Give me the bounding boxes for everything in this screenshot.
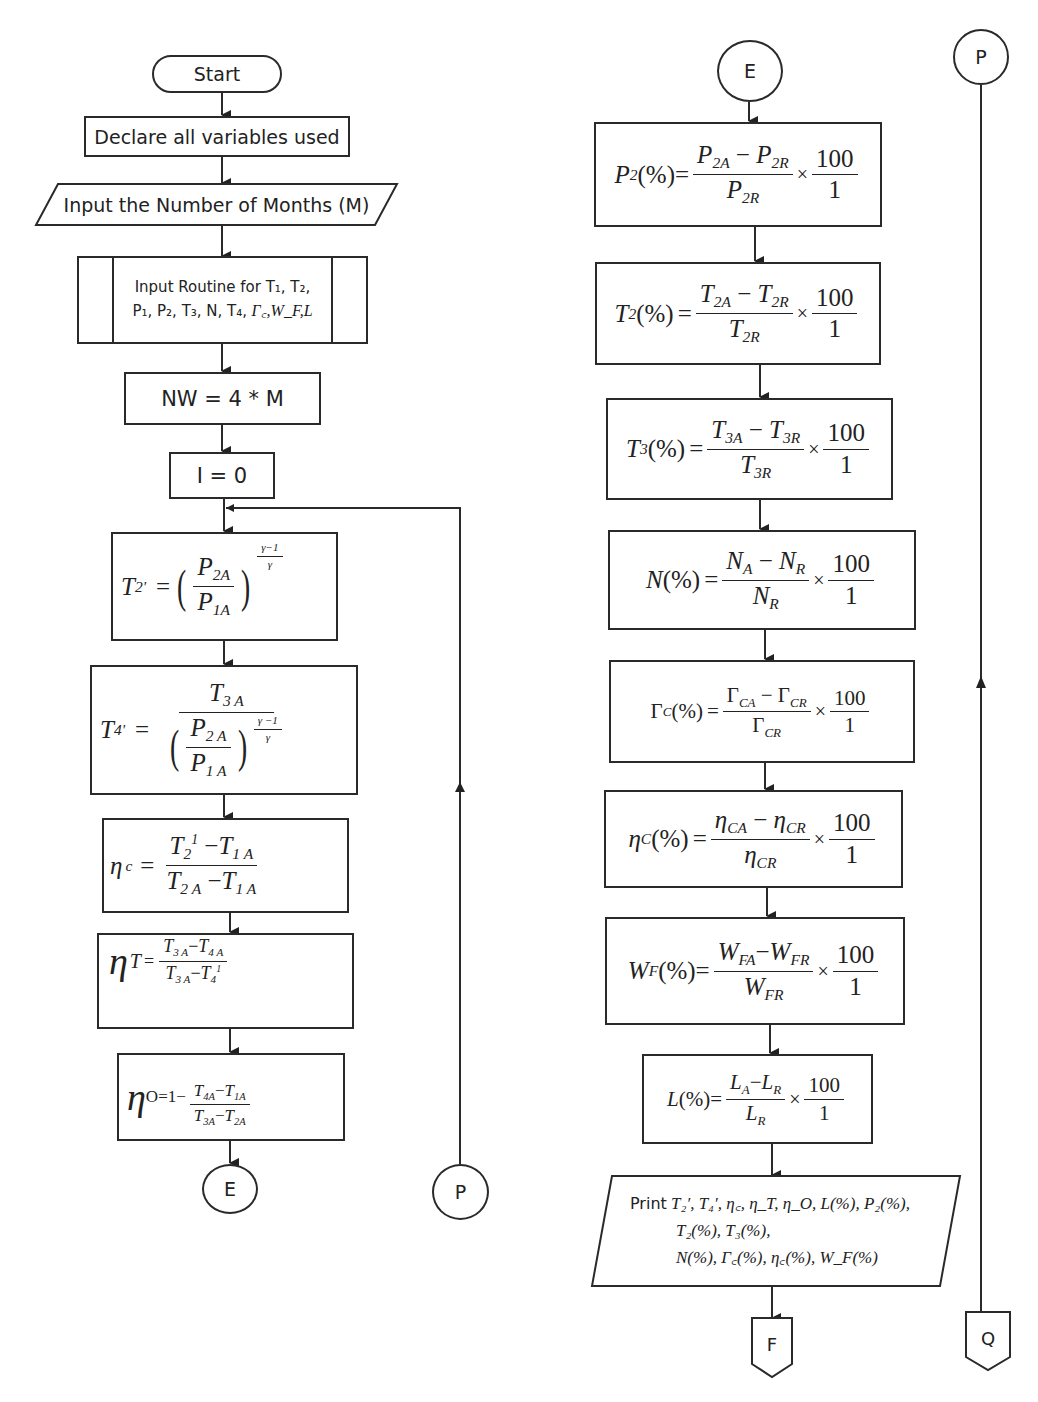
eta-c-formula-box: ηc = T21 −T1 A T2 A −T1 A — [102, 818, 349, 913]
formula-box-n: N(%)= NA − NRNR × 1001 — [608, 530, 916, 630]
input-routine-line2-math: Γ꜀,W_F,L — [252, 302, 313, 319]
formula-eta-c-pct: ηC(%)= ηCA − ηCRηCR × 1001 — [628, 807, 878, 871]
formula-t3: T3(%)= T3A − T3RT3R × 1001 — [626, 417, 873, 481]
formula-p2: P2(%)= P2A − P2RP2R × 1001 — [614, 142, 861, 206]
formula-wf: WF(%)= WFA−WFRWFR × 1001 — [628, 939, 882, 1003]
t2-prime-formula: T2' = ( P2AP1A ) γ−1γ — [121, 554, 287, 618]
print-line3: N(%), Γ꜀(%), η꜀(%), W_F(%) — [630, 1244, 950, 1271]
eta-o-formula: ηO=1− T4A−T1A T3A−T2A — [127, 1068, 254, 1127]
input-routine-process: Input Routine for T₁, T₂, P₁, P₂, T₃, N,… — [113, 257, 332, 343]
formula-box-wf: WF(%)= WFA−WFRWFR × 1001 — [605, 917, 905, 1025]
offpage-connector-f: F — [752, 1326, 792, 1362]
nw-label: NW = 4 * M — [161, 387, 284, 411]
input-months-label: Input the Number of Months (M) — [64, 194, 370, 216]
print-line1: T₂′, T₄′, η꜀, η_T, η_O, L(%), P₂(%), — [671, 1194, 910, 1213]
formula-gamma-c: ΓC(%)= ΓCA − ΓCRΓCR × 1001 — [651, 684, 874, 739]
init-i-box: I = 0 — [169, 452, 275, 499]
declare-variables-box: Declare all variables used — [84, 116, 350, 157]
t4-prime-formula: T4' = T3 A ( P2 AP1 A ) γ −1γ — [100, 680, 294, 779]
connector-e-left: E — [202, 1164, 258, 1214]
declare-label: Declare all variables used — [94, 126, 339, 148]
print-output-io: Print T₂′, T₄′, η꜀, η_T, η_O, L(%), P₂(%… — [630, 1190, 950, 1280]
formula-l: L(%)= LA−LRLR × 1001 — [667, 1071, 848, 1126]
nw-assign-box: NW = 4 * M — [124, 372, 321, 425]
connector-p-left: P — [432, 1164, 489, 1220]
input-routine-line2: P₁, P₂, T₃, N, T₄, — [132, 302, 247, 320]
t2-prime-formula-box: T2' = ( P2AP1A ) γ−1γ — [111, 532, 338, 641]
connector-e-right: E — [717, 40, 783, 102]
offpage-connector-q: Q — [966, 1320, 1010, 1356]
formula-box-t3: T3(%)= T3A − T3RT3R × 1001 — [606, 398, 893, 500]
print-word: Print — [630, 1194, 667, 1213]
formula-box-p2: P2(%)= P2A − P2RP2R × 1001 — [594, 122, 882, 227]
start-terminal: Start — [152, 55, 282, 93]
eta-t-formula: ηT = T3 A−T4 A T3 A−T41 — [109, 937, 231, 985]
formula-t2: T2(%)= T2A − T2RT2R × 1001 — [615, 281, 862, 345]
eta-c-formula: ηc = T21 −T1 A T2 A −T1 A — [110, 833, 264, 897]
formula-n: N(%)= NA − NRNR × 1001 — [646, 548, 878, 612]
formula-box-gamma-c: ΓC(%)= ΓCA − ΓCRΓCR × 1001 — [609, 660, 915, 763]
input-routine-line1: Input Routine for T₁, T₂, — [135, 276, 311, 299]
connector-p-right: P — [953, 29, 1009, 85]
formula-box-l: L(%)= LA−LRLR × 1001 — [642, 1054, 873, 1144]
print-line2: T₂(%), T₃(%), — [630, 1217, 950, 1244]
eta-t-formula-box: ηT = T3 A−T4 A T3 A−T41 — [97, 933, 354, 1029]
init-i-label: I = 0 — [197, 464, 248, 488]
formula-box-t2: T2(%)= T2A − T2RT2R × 1001 — [595, 262, 881, 365]
formula-box-eta-c-pct: ηC(%)= ηCA − ηCRηCR × 1001 — [604, 790, 903, 888]
eta-o-formula-box: ηO=1− T4A−T1A T3A−T2A — [117, 1053, 345, 1141]
t4-prime-formula-box: T4' = T3 A ( P2 AP1 A ) γ −1γ — [90, 665, 358, 795]
start-label: Start — [194, 63, 240, 85]
input-months-io: Input the Number of Months (M) — [36, 184, 397, 225]
